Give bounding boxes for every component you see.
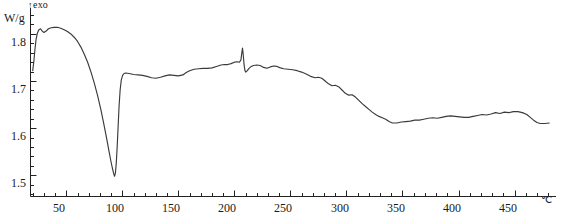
dsc-thermogram-chart: ↑ exo W/g ℃ 1.8 1.7 1.6 1.5 50 100 150 2… [0, 0, 562, 223]
x-axis [31, 191, 557, 197]
plot-area [0, 0, 562, 223]
x-axis-ticks [34, 191, 549, 197]
y-axis [31, 8, 37, 197]
dsc-heat-flow-curve [33, 27, 550, 176]
